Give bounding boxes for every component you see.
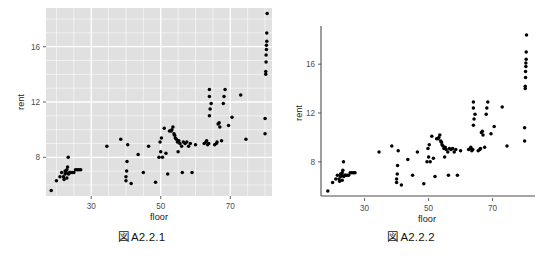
scatter-point: [500, 105, 504, 109]
scatter-point: [79, 168, 83, 172]
x-axis-title: floor: [418, 214, 436, 224]
scatter-point: [411, 174, 415, 178]
scatter-point: [208, 95, 212, 99]
scatter-points-group: [326, 33, 528, 193]
scatter-point: [395, 177, 399, 181]
scatter-point: [171, 125, 175, 129]
scatter-point: [523, 126, 527, 129]
scatter-point: [125, 160, 129, 164]
y-axis-tick-label: 16: [31, 43, 41, 52]
scatter-point: [432, 156, 436, 160]
scatter-point: [263, 117, 267, 121]
scatter-point: [161, 156, 165, 160]
scatter-point: [125, 169, 129, 173]
scatter-point: [334, 177, 338, 181]
scatter-point: [154, 180, 158, 184]
scatter-point: [395, 172, 399, 176]
scatter-point: [185, 140, 189, 144]
scatter-point: [218, 125, 222, 129]
scatter-point: [181, 171, 185, 175]
scatter-point: [176, 150, 180, 154]
scatter-point: [479, 147, 483, 151]
scatter-point: [220, 139, 224, 143]
scatter-point: [159, 150, 163, 154]
scatter-point: [471, 148, 475, 152]
scatter-point: [207, 142, 211, 146]
scatter-point: [55, 179, 59, 183]
scatter-point: [489, 132, 493, 136]
scatter-point: [264, 70, 268, 74]
scatter-point: [524, 76, 528, 80]
scatter-point: [492, 125, 496, 128]
y-axis-tick-label: 16: [306, 60, 316, 69]
scatter-point: [205, 139, 209, 143]
scatter-point: [147, 144, 151, 148]
scatter-point: [406, 158, 410, 162]
scatter-point: [157, 156, 161, 160]
scatter-point: [525, 33, 529, 37]
scatter-point: [422, 182, 426, 186]
scatter-point: [67, 156, 71, 160]
scatter-point: [58, 175, 62, 179]
scatter-point: [166, 172, 170, 176]
scatter-point: [483, 145, 487, 149]
scatter-point: [158, 140, 162, 144]
figure-a222: 81216305070floorrent 図A2.2.2: [283, 0, 539, 258]
scatter-plot-grey-theme: 81216305070floorrent: [0, 0, 283, 226]
scatter-point: [180, 144, 184, 148]
figure-number-label: A2.2.1: [131, 231, 165, 243]
x-axis-tick-label: 50: [424, 204, 434, 213]
scatter-point: [524, 61, 528, 65]
x-axis-tick-label: 50: [156, 202, 166, 211]
scatter-point: [353, 171, 357, 175]
scatter-point: [505, 144, 509, 148]
figure-a221: 81216305070floorrent 図A2.2.1: [0, 0, 283, 258]
scatter-point: [208, 88, 212, 92]
scatter-point: [524, 50, 528, 54]
scatter-point: [400, 183, 404, 187]
scatter-point: [459, 149, 463, 153]
scatter-point: [190, 171, 194, 175]
scatter-point: [451, 147, 455, 151]
scatter-point: [217, 121, 221, 125]
scatter-point: [60, 171, 64, 175]
x-axis-tick-label: 30: [87, 202, 97, 211]
scatter-point: [486, 100, 490, 104]
scatter-point: [342, 160, 346, 164]
scatter-point: [425, 160, 429, 164]
scatter-point: [222, 102, 226, 106]
scatter-point: [65, 176, 69, 180]
scatter-point: [265, 12, 269, 16]
scatter-point: [447, 174, 451, 178]
scatter-point: [485, 106, 489, 110]
scatter-point: [223, 88, 227, 92]
scatter-point: [341, 169, 345, 173]
scatter-point: [340, 178, 344, 182]
x-axis-tick-label: 70: [488, 204, 498, 213]
scatter-point: [239, 93, 243, 97]
scatter-point: [433, 175, 437, 179]
figure-mark-glyph: 図: [118, 230, 129, 244]
scatter-point: [326, 189, 330, 193]
scatter-point: [194, 143, 198, 147]
scatter-point: [263, 132, 267, 136]
scatter-point: [377, 150, 381, 154]
scatter-point: [396, 149, 400, 153]
scatter-point: [484, 112, 488, 116]
x-axis-tick-label: 70: [226, 202, 236, 211]
scatter-point: [438, 133, 442, 137]
scatter-point: [427, 143, 431, 147]
scatter-point: [126, 143, 129, 147]
scatter-point: [472, 123, 476, 127]
scatter-point: [264, 53, 268, 57]
scatter-point: [49, 189, 53, 193]
scatter-point: [124, 175, 128, 179]
scatter-point: [472, 117, 476, 121]
scatter-point: [264, 60, 268, 64]
scatter-point: [124, 179, 128, 183]
scatter-point: [119, 138, 123, 142]
scatter-point: [446, 150, 450, 154]
scatter-point: [222, 95, 226, 99]
scatter-point: [456, 174, 460, 178]
y-axis-tick-label: 12: [306, 109, 316, 118]
